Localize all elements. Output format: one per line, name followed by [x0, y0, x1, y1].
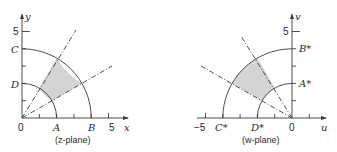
w-point-c-star: C*: [215, 122, 228, 133]
w-v-arrow-icon: [290, 13, 294, 19]
w-u-axis-label: u: [321, 122, 327, 133]
z-shaded-region: [39, 58, 82, 101]
z-point-b: B: [87, 122, 95, 133]
w-point-b-star: B*: [298, 43, 311, 54]
w-plane: [197, 13, 327, 120]
z-y-tick-label: 5: [13, 26, 19, 37]
w-point-a-star: A*: [298, 78, 311, 89]
z-plane: [20, 13, 129, 120]
w-v-axis-label: v: [295, 11, 301, 22]
z-point-a: A: [52, 122, 60, 133]
w-point-d-star: D*: [250, 122, 264, 133]
w-origin-label: 0: [289, 122, 295, 133]
z-x-tick-label: 5: [109, 122, 115, 133]
diagram-canvas: y 5 C D 0 A B 5 x (z-plane): [0, 0, 337, 152]
z-point-c: C: [11, 44, 19, 55]
w-u-arrow-icon: [321, 116, 327, 120]
z-plane-caption: (z-plane): [55, 135, 91, 145]
z-point-d: D: [10, 79, 19, 90]
w-v-ticks: [292, 32, 300, 101]
z-y-ticks: [22, 32, 30, 101]
w-plane-caption: (w-plane): [242, 135, 280, 145]
z-x-arrow-icon: [123, 116, 129, 120]
w-shaded-region: [232, 58, 275, 101]
w-v-tick-label: 5: [283, 26, 289, 37]
w-u-tick-label: −5: [194, 122, 206, 133]
z-y-axis-label: y: [24, 11, 31, 22]
z-y-arrow-icon: [20, 13, 24, 19]
z-origin-label: 0: [18, 122, 24, 133]
z-x-ticks: [39, 113, 108, 118]
z-x-axis-label: x: [124, 122, 130, 133]
